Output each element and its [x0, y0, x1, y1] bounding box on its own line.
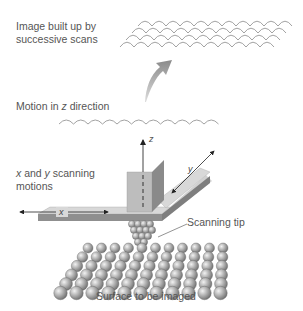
scanning-tip-label: Scanning tip: [187, 216, 245, 229]
image-built-label: Image built up by successive scans: [16, 20, 98, 46]
z-motion-arcs: [59, 120, 219, 124]
stm-diagram: z x y: [0, 0, 303, 311]
curved-arrow-icon: [145, 60, 172, 102]
motion-z-label: Motion in z direction: [16, 100, 109, 113]
z-axis-label: z: [148, 134, 154, 144]
x-axis-label: x: [58, 207, 64, 217]
image-built-line2: successive scans: [16, 33, 98, 46]
xy-motions-label: x and y scanning motions: [16, 167, 95, 193]
image-built-line1: Image built up by: [16, 20, 98, 33]
scan-image-arcs: [120, 21, 292, 47]
xy-motions-line2: motions: [16, 180, 95, 193]
y-axis-label: y: [187, 164, 193, 174]
column-front: [127, 172, 152, 212]
scanning-tip-leader: [158, 224, 187, 237]
surface-label: Surface to be imaged: [96, 290, 196, 303]
